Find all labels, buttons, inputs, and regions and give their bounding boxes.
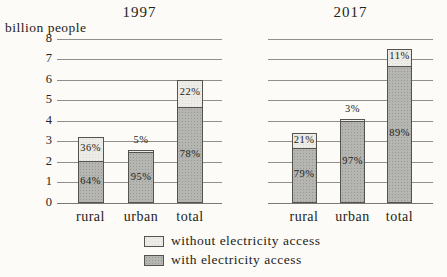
legend-row-without: without electricity access <box>144 233 320 249</box>
pct-with-rural-1997: 64% <box>69 175 113 186</box>
y-tick-5: 5 <box>26 92 52 107</box>
pct-without-rural-1997: 36% <box>69 142 113 153</box>
pct-with-urban-1997: 95% <box>119 171 163 182</box>
y-tick-0: 0 <box>26 195 52 210</box>
with-electricity-swatch-icon <box>144 255 164 266</box>
panel-title-1997: 1997 <box>57 4 222 21</box>
gridline-y0 <box>57 203 222 204</box>
gridline-y8 <box>268 39 433 40</box>
pct-with-total-1997: 78% <box>168 148 212 159</box>
category-label-total-1997: total <box>160 209 220 225</box>
without-electricity-swatch-icon <box>144 236 164 247</box>
legend-row-with: with electricity access <box>144 252 320 268</box>
y-tick-2: 2 <box>26 154 52 169</box>
pct-without-urban-1997: 5% <box>119 134 163 145</box>
bar-total-1997 <box>177 80 203 203</box>
legend: without electricity access with electric… <box>144 233 320 271</box>
legend-label-with: with electricity access <box>171 252 302 268</box>
y-tick-1: 1 <box>26 174 52 189</box>
pct-with-rural-2017: 79% <box>282 168 326 179</box>
pct-without-rural-2017: 21% <box>282 134 326 145</box>
pct-with-total-2017: 89% <box>378 127 422 138</box>
legend-label-without: without electricity access <box>171 233 320 249</box>
category-label-total-2017: total <box>370 209 430 225</box>
electricity-access-chart: billion people 1997 64%36%rural95%5%urba… <box>0 0 447 277</box>
y-tick-4: 4 <box>26 113 52 128</box>
bar-total-2017 <box>387 49 412 203</box>
pct-without-urban-2017: 3% <box>331 103 375 114</box>
gridline-y8 <box>57 39 222 40</box>
y-tick-7: 7 <box>26 51 52 66</box>
pct-with-urban-2017: 97% <box>331 155 375 166</box>
pct-without-total-2017: 11% <box>378 50 422 61</box>
y-tick-8: 8 <box>26 31 52 46</box>
pct-without-total-1997: 22% <box>168 86 212 97</box>
gridline-y0 <box>268 203 433 204</box>
y-tick-6: 6 <box>26 72 52 87</box>
y-tick-3: 3 <box>26 133 52 148</box>
panel-title-2017: 2017 <box>268 4 433 21</box>
gridline-y7 <box>57 59 222 60</box>
